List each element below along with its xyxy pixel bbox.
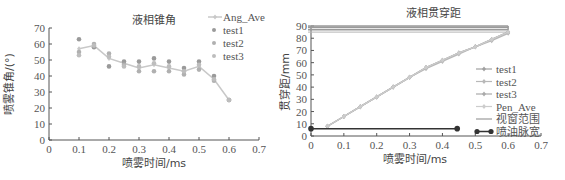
data-point — [197, 63, 202, 68]
data-point — [227, 98, 232, 103]
series-view-window-range — [308, 26, 508, 32]
legend-item-test3: test3 — [212, 50, 244, 62]
legend-label: test2 — [223, 37, 244, 49]
legend-label: Pen_Ave — [496, 101, 536, 113]
series-test2 — [325, 31, 510, 129]
data-point — [473, 44, 477, 49]
legend-item-ang-ave: Ang_Ave — [208, 11, 265, 23]
data-point — [152, 56, 157, 61]
left-legend: Ang_Avetest1test2test3 — [208, 11, 265, 62]
legend-item-pen-ave: Pen_Ave — [476, 101, 536, 113]
y-tick-label: 0 — [302, 130, 308, 142]
data-point — [375, 94, 379, 99]
y-tick-label: 80 — [296, 32, 308, 44]
y-tick-label: 30 — [296, 93, 308, 105]
left-chart-title: 液相锥角 — [132, 13, 176, 27]
penetration-chart: 液相贯穿距 00.10.20.30.40.50.60.7010203040506… — [278, 6, 548, 166]
right-legend: test1test2test3Pen_Ave视窗范围喷油脉宽 — [474, 63, 540, 139]
data-point — [137, 59, 142, 64]
y-tick-label: 90 — [296, 20, 308, 32]
series-injection-pulse-width — [308, 126, 460, 132]
y-tick-label: 50 — [34, 54, 46, 66]
y-tick-label: 0 — [40, 134, 46, 146]
y-tick-label: 30 — [34, 86, 46, 98]
legend-item-test1: test1 — [212, 24, 244, 36]
data-point — [358, 104, 362, 109]
x-tick-label: 0.3 — [403, 139, 417, 151]
y-tick-label: 20 — [34, 102, 46, 114]
chart-canvas: 液相锥角 00.10.20.30.40.50.60.70102030405060… — [0, 0, 565, 180]
right-plot-area — [308, 26, 510, 131]
x-tick-label: 0.1 — [72, 143, 86, 155]
legend-label: test1 — [223, 24, 244, 36]
left-y-axis-title: 喷雾锥角/(°) — [3, 53, 16, 115]
data-point — [152, 61, 157, 66]
legend-label: Ang_Ave — [223, 11, 265, 23]
x-tick-label: 0 — [46, 143, 52, 155]
x-tick-label: 0.3 — [132, 143, 146, 155]
y-tick-label: 40 — [296, 81, 308, 93]
legend-item-view-window-range: 视窗范围 — [476, 112, 540, 126]
data-point — [77, 37, 82, 42]
data-point — [167, 59, 172, 64]
y-tick-label: 40 — [34, 70, 46, 82]
x-tick-label: 0.5 — [192, 143, 206, 155]
y-tick-label: 50 — [296, 69, 308, 81]
data-point — [77, 53, 82, 58]
x-tick-label: 0.6 — [222, 143, 236, 155]
legend-label: test3 — [223, 50, 244, 62]
x-tick-label: 0.7 — [252, 143, 266, 155]
right-chart-title: 液相贯穿距 — [406, 6, 461, 20]
data-point — [92, 43, 97, 48]
x-tick-label: 0.4 — [436, 139, 450, 151]
data-point — [137, 69, 142, 74]
legend-item-test3: test3 — [476, 88, 517, 100]
right-x-axis-title: 喷雾时间/ms — [383, 153, 447, 166]
x-tick-label: 0.5 — [468, 139, 482, 151]
y-tick-label: 10 — [296, 118, 308, 130]
data-point — [167, 69, 172, 74]
data-point — [197, 67, 202, 72]
data-point — [107, 55, 112, 60]
x-tick-label: 0.1 — [337, 139, 351, 151]
data-point — [122, 64, 127, 69]
data-point — [342, 114, 346, 119]
legend-label: test1 — [496, 63, 517, 75]
x-tick-label: 0.2 — [370, 139, 384, 151]
data-point — [182, 69, 187, 74]
x-tick-label: 0.7 — [534, 139, 548, 151]
data-point — [167, 64, 172, 69]
y-tick-label: 70 — [296, 44, 308, 56]
left-plot-area — [77, 37, 232, 103]
x-tick-label: 0 — [308, 139, 314, 151]
data-point — [408, 75, 412, 80]
y-tick-label: 70 — [34, 22, 46, 34]
y-tick-label: 20 — [296, 106, 308, 118]
x-tick-label: 0.6 — [501, 139, 515, 151]
legend-item-test2: test2 — [212, 37, 244, 49]
legend-label: test2 — [496, 76, 517, 88]
data-point — [152, 69, 157, 74]
legend-item-test2: test2 — [476, 76, 517, 88]
legend-label: test3 — [496, 88, 517, 100]
legend-item-test1: test1 — [476, 63, 517, 75]
legend-label: 视窗范围 — [496, 112, 540, 126]
legend-label: 喷油脉宽 — [496, 125, 540, 139]
y-tick-label: 60 — [34, 38, 46, 50]
data-point — [212, 77, 217, 82]
cone-angle-chart: 液相锥角 00.10.20.30.40.50.60.70102030405060… — [3, 11, 266, 170]
data-point — [107, 64, 112, 69]
x-tick-label: 0.4 — [162, 143, 176, 155]
x-tick-label: 0.2 — [102, 143, 116, 155]
right-y-axis-title: 贯穿距/mm — [278, 53, 292, 111]
y-tick-label: 60 — [296, 57, 308, 69]
data-point — [137, 64, 142, 69]
y-tick-label: 10 — [34, 118, 46, 130]
data-point — [391, 85, 395, 90]
left-x-axis-title: 喷雾时间/ms — [122, 157, 186, 170]
